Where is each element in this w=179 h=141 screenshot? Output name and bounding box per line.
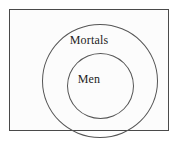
universe-rectangle: Mortals Men bbox=[9, 9, 169, 131]
set-circle-men[interactable] bbox=[67, 53, 134, 119]
set-label-mortals: Mortals bbox=[10, 34, 168, 47]
set-label-men: Men bbox=[10, 73, 168, 86]
euler-diagram: Mortals Men bbox=[0, 0, 179, 141]
